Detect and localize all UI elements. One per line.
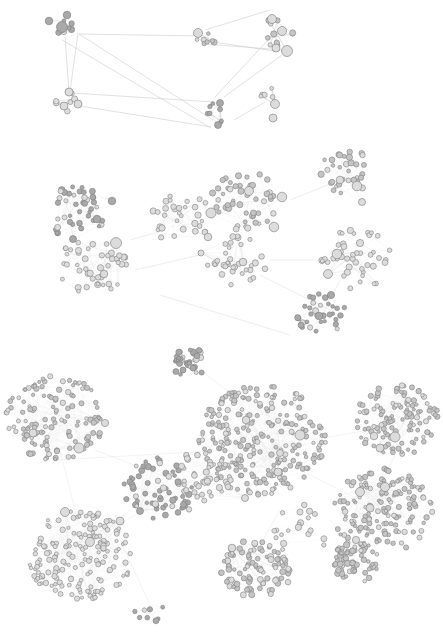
network-node: [55, 224, 61, 230]
network-node: [360, 152, 365, 157]
network-node: [255, 477, 259, 481]
network-node: [295, 413, 299, 417]
network-node: [237, 546, 243, 552]
network-node: [329, 157, 335, 163]
network-node: [435, 408, 440, 413]
network-node: [355, 425, 360, 430]
network-node: [20, 410, 24, 414]
network-node: [301, 502, 307, 508]
network-node: [87, 270, 93, 276]
network-node: [410, 403, 415, 408]
hub-node: [198, 250, 204, 256]
network-node: [238, 188, 244, 194]
network-node: [410, 429, 413, 432]
network-node: [254, 387, 259, 392]
network-node: [53, 559, 57, 563]
network-node: [125, 572, 129, 576]
network-node: [96, 511, 101, 516]
network-node: [173, 369, 179, 375]
network-node: [184, 456, 190, 462]
network-node: [145, 464, 151, 470]
network-node: [294, 392, 299, 397]
network-node: [223, 264, 228, 269]
network-node: [260, 549, 265, 554]
network-node: [322, 433, 327, 438]
network-node: [346, 501, 350, 505]
hub-node: [271, 100, 280, 109]
network-node: [36, 570, 40, 574]
network-node: [234, 462, 237, 465]
network-node: [197, 197, 202, 202]
network-node: [354, 162, 359, 167]
network-node: [270, 439, 274, 443]
network-node: [203, 469, 209, 475]
hub-node: [86, 538, 95, 547]
network-node: [416, 428, 420, 432]
network-node: [359, 483, 363, 487]
network-node: [321, 536, 327, 542]
network-node: [187, 361, 192, 366]
network-node: [298, 396, 303, 401]
network-node: [77, 268, 82, 273]
network-node: [361, 162, 366, 167]
network-node: [175, 510, 181, 516]
hub-node: [180, 367, 186, 373]
network-node: [98, 523, 102, 527]
network-node: [362, 518, 367, 523]
network-node: [97, 224, 101, 228]
network-node: [196, 483, 202, 489]
network-node: [80, 185, 84, 189]
network-node: [71, 455, 75, 459]
network-node: [302, 414, 307, 419]
network-node: [43, 425, 47, 429]
network-node: [116, 260, 120, 264]
network-node: [337, 561, 343, 567]
network-node: [51, 405, 55, 409]
network-node: [396, 446, 401, 451]
network-node: [202, 447, 206, 451]
network-node: [422, 521, 426, 525]
network-node: [245, 481, 250, 486]
network-node: [304, 466, 309, 471]
network-node: [95, 406, 99, 410]
network-node: [289, 421, 294, 426]
hub-node: [269, 114, 277, 122]
network-node: [207, 465, 211, 469]
network-node: [90, 388, 93, 391]
network-node: [236, 457, 241, 462]
network-node: [206, 263, 210, 267]
hub-node: [239, 258, 247, 266]
network-node: [192, 204, 198, 210]
network-node: [83, 552, 86, 555]
network-node: [237, 391, 241, 395]
hub-node: [332, 249, 342, 259]
network-node: [79, 226, 84, 231]
network-node: [114, 531, 119, 536]
network-node: [327, 312, 332, 317]
network-node: [382, 260, 388, 266]
network-node: [270, 491, 274, 495]
network-node: [388, 417, 392, 421]
network-node: [391, 513, 396, 518]
network-node: [428, 416, 431, 419]
network-node: [67, 446, 72, 451]
network-node: [97, 416, 100, 419]
network-node: [336, 567, 342, 573]
network-node: [47, 525, 51, 529]
network-node: [241, 576, 246, 581]
network-node: [262, 266, 268, 272]
network-node: [192, 220, 198, 226]
network-node: [79, 535, 83, 539]
network-node: [272, 384, 277, 389]
network-node: [351, 479, 357, 485]
network-node: [255, 492, 260, 497]
network-node: [245, 225, 251, 231]
network-node: [372, 282, 376, 286]
network-node: [103, 555, 107, 559]
network-node: [195, 212, 201, 218]
network-node: [387, 248, 392, 253]
network-node: [247, 576, 251, 580]
network-node: [280, 540, 286, 546]
network-node: [258, 401, 263, 406]
network-node: [312, 511, 317, 516]
